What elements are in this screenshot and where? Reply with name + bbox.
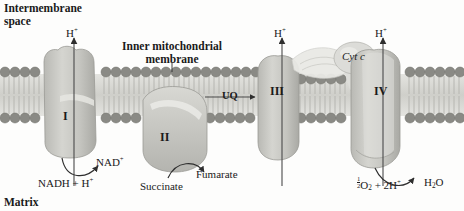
intermembrane-space-label: Intermembrane space xyxy=(4,2,82,28)
intermembrane-space-line1: Intermembrane xyxy=(4,2,82,14)
complex-iv-shape xyxy=(351,49,400,168)
inner-membrane-label: Inner mitochondrial membrane xyxy=(104,40,240,66)
complex-i-shape xyxy=(44,46,96,158)
oxygen-protons-label: 12 O2 + 2H+ xyxy=(357,176,401,192)
complex-ii-label: II xyxy=(160,131,169,144)
complex-iv-label: IV xyxy=(374,85,387,98)
proton-label-complex-i: H+ xyxy=(66,26,78,39)
water-label: H2O xyxy=(424,176,444,190)
succinate-label: Succinate xyxy=(140,180,183,192)
fumarate-label: Fumarate xyxy=(196,168,238,180)
cytochrome-c-label: Cyt c xyxy=(342,50,365,62)
uq-label: UQ xyxy=(222,90,238,102)
nad-plus-label: NAD+ xyxy=(96,155,124,168)
inner-membrane-line1: Inner mitochondrial xyxy=(122,40,222,52)
proton-label-complex-iv: H+ xyxy=(375,26,387,39)
complex-i-label: I xyxy=(63,110,68,123)
nadh-label: NADH + H+ xyxy=(38,176,93,189)
etc-diagram: Intermembrane space Matrix Inner mitocho… xyxy=(0,0,464,211)
complex-ii-shape xyxy=(143,87,207,173)
proton-label-complex-iii: H+ xyxy=(274,26,286,39)
nadh-to-nad-arrow xyxy=(62,158,98,176)
matrix-label: Matrix xyxy=(4,196,38,209)
intermembrane-space-line2: space xyxy=(4,15,31,27)
complex-iii-label: III xyxy=(270,85,284,98)
inner-membrane-line2: membrane xyxy=(145,53,198,65)
